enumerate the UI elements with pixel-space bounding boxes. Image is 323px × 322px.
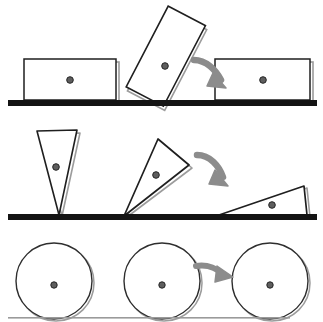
ground-line xyxy=(8,100,317,106)
circle-outline xyxy=(232,243,308,319)
circle-outline xyxy=(124,243,200,319)
center-of-mass-dot xyxy=(51,282,57,288)
circle-left xyxy=(16,243,94,321)
circle-outline xyxy=(16,243,92,319)
center-of-mass-dot xyxy=(269,202,276,209)
center-of-mass-dot xyxy=(67,77,74,84)
center-of-mass-dot xyxy=(162,63,169,70)
circle-middle xyxy=(124,243,202,321)
center-of-mass-dot xyxy=(159,282,165,288)
ground-line xyxy=(8,214,317,220)
ground-line xyxy=(8,317,290,319)
center-of-mass-dot xyxy=(260,77,267,84)
circle-right xyxy=(232,243,310,321)
rectangle-upright-right xyxy=(215,59,313,103)
row-circle xyxy=(8,243,310,321)
center-of-mass-dot xyxy=(53,164,60,171)
rectangle-upright-left xyxy=(24,59,119,103)
diagram-canvas: Stability and tipping of objects on a su… xyxy=(0,0,323,322)
stability-diagram: Stability and tipping of objects on a su… xyxy=(0,0,323,322)
center-of-mass-dot xyxy=(153,172,160,179)
center-of-mass-dot xyxy=(267,282,273,288)
